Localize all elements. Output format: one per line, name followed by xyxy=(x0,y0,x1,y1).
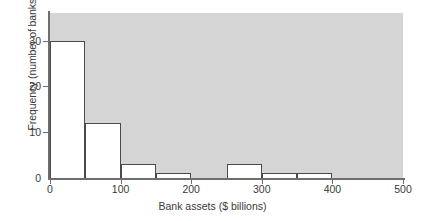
y-axis-tick-label: 0 xyxy=(0,172,41,184)
y-axis-title: Frequency (number of banks) xyxy=(26,0,38,153)
x-axis-tick-label: 100 xyxy=(112,183,130,195)
x-axis-tick-label: 400 xyxy=(324,183,342,195)
y-axis-tick xyxy=(43,132,49,133)
x-axis-tick-label: 300 xyxy=(253,183,271,195)
histogram-bar xyxy=(121,164,156,178)
histogram-bar xyxy=(50,41,85,179)
x-axis-tick-label: 500 xyxy=(394,183,412,195)
histogram-bar xyxy=(227,164,262,178)
x-axis-tick-label: 200 xyxy=(182,183,200,195)
y-axis-line xyxy=(48,11,50,180)
histogram-figure: 0102030 0100200300400500 Frequency (numb… xyxy=(0,0,425,221)
histogram-bar xyxy=(85,123,120,178)
x-axis-title: Bank assets ($ billions) xyxy=(0,200,425,212)
y-axis-tick xyxy=(43,86,49,87)
x-axis-line xyxy=(48,178,405,180)
y-axis-tick xyxy=(43,41,49,42)
x-axis-tick-label: 0 xyxy=(47,183,53,195)
